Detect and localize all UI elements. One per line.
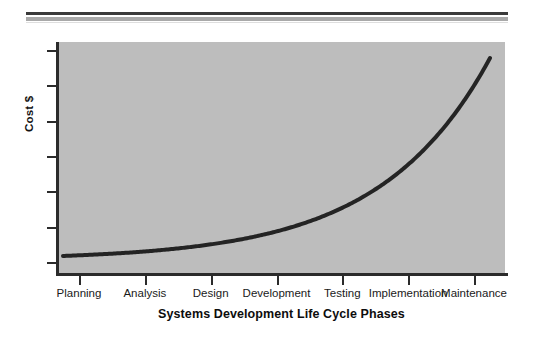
x-axis-tick-labels: PlanningAnalysisDesignDevelopmentTesting… — [0, 287, 533, 303]
cost-curve-path — [63, 58, 490, 256]
x-axis-tick-label: Analysis — [123, 287, 166, 299]
header-rule-hairline — [26, 22, 508, 23]
x-axis-tick-label: Design — [193, 287, 229, 299]
header-rule-dark — [26, 12, 508, 15]
y-axis-tick — [47, 121, 57, 123]
x-axis-tick — [277, 276, 279, 285]
x-axis-tick-label: Implementation — [369, 287, 448, 299]
chart-figure: Cost $ PlanningAnalysisDesignDevelopment… — [0, 0, 533, 358]
header-rule-gray — [26, 17, 508, 21]
x-axis-line — [56, 273, 508, 276]
x-axis-tick-label: Planning — [57, 287, 102, 299]
y-axis-tick — [47, 50, 57, 52]
cost-curve — [58, 42, 505, 274]
y-axis-tick — [47, 156, 57, 158]
x-axis-tick — [211, 276, 213, 285]
x-axis-tick — [474, 276, 476, 285]
x-axis-title: Systems Development Life Cycle Phases — [58, 307, 505, 321]
x-axis-tick — [342, 276, 344, 285]
y-axis-tick — [47, 191, 57, 193]
y-axis-tick — [47, 85, 57, 87]
x-axis-tick-label: Maintenance — [441, 287, 507, 299]
x-axis-tick — [79, 276, 81, 285]
x-axis-tick-label: Development — [243, 287, 311, 299]
y-axis-line — [56, 42, 59, 276]
x-axis-tick — [145, 276, 147, 285]
x-axis-tick — [408, 276, 410, 285]
y-axis-tick — [47, 227, 57, 229]
y-axis-title: Cost $ — [23, 96, 35, 132]
y-axis-tick — [47, 262, 57, 264]
x-axis-tick-label: Testing — [324, 287, 360, 299]
